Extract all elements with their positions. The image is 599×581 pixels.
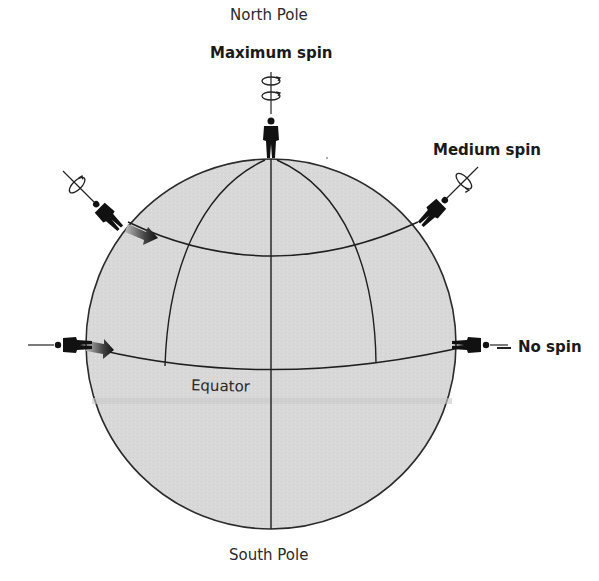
medium-spin-label: Medium spin (433, 141, 541, 159)
observer-north-pole (262, 72, 280, 158)
no-spin-dash (497, 347, 511, 349)
spin-axis (446, 167, 478, 199)
no-spin-label: No spin (518, 338, 582, 356)
equator-label: Equator (191, 376, 250, 396)
north-pole-label: North Pole (230, 6, 308, 24)
person-icon (263, 118, 279, 159)
spin-latitude-diagram: North Pole Maximum spin Medium spin No s… (0, 0, 599, 581)
shading-band (92, 398, 452, 404)
observer-equator-right (452, 337, 508, 353)
observer-medium-spin (414, 160, 485, 231)
person-icon (452, 337, 489, 353)
spin-axis (63, 171, 95, 203)
diagram-canvas (0, 0, 599, 581)
globe (86, 159, 476, 529)
speck (326, 157, 328, 159)
observer-mid-latitude-left (56, 164, 127, 235)
maximum-spin-label: Maximum spin (210, 44, 333, 62)
south-pole-label: South Pole (229, 546, 308, 564)
observer-equator-left (28, 337, 92, 353)
